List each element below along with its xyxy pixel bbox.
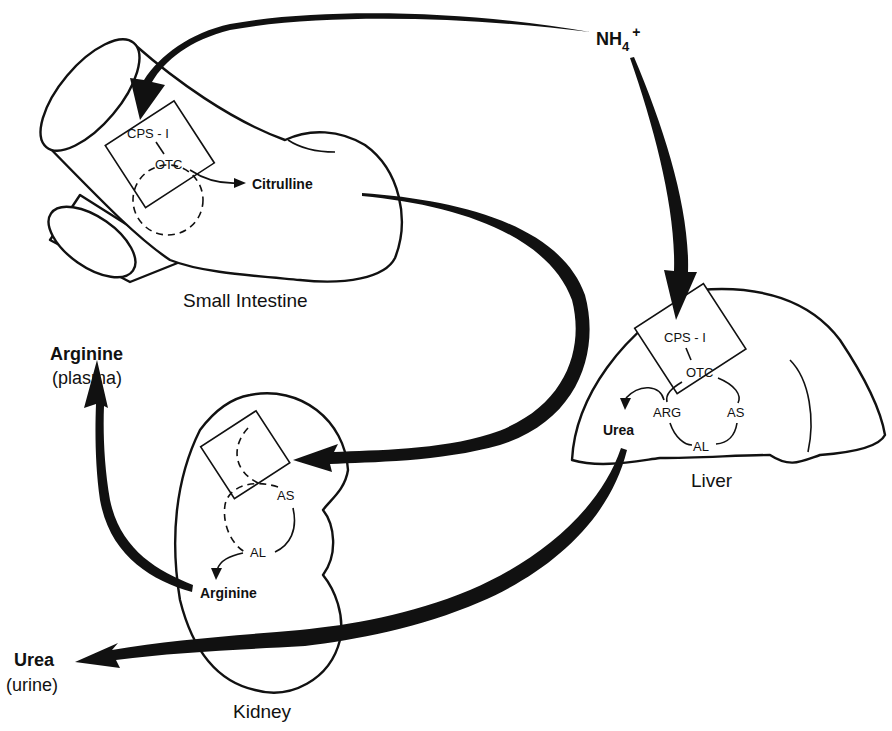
kidney-label: Kidney bbox=[233, 701, 292, 722]
urea-to-urine-arrow bbox=[75, 448, 627, 668]
kidney-arginine-label: Arginine bbox=[200, 585, 257, 601]
kidney-enzyme-al: AL bbox=[250, 545, 266, 560]
liver-urea-label: Urea bbox=[603, 422, 634, 438]
liver-enzyme-al: AL bbox=[693, 439, 709, 454]
small-intestine: CPS - I OTC Citrulline Small Intestine bbox=[23, 24, 401, 311]
arginine-plasma-label: Arginine bbox=[50, 344, 123, 364]
urea-cycle-diagram: CPS - I OTC Citrulline Small Intestine C… bbox=[0, 0, 892, 731]
nh4-to-liver-arrow bbox=[630, 57, 697, 320]
intestine-enzyme-otc: OTC bbox=[155, 157, 182, 172]
small-intestine-label: Small Intestine bbox=[183, 290, 308, 311]
liver-label: Liver bbox=[691, 470, 733, 491]
arginine-plasma-sublabel: (plasma) bbox=[52, 368, 122, 388]
urea-urine-sublabel: (urine) bbox=[6, 675, 58, 695]
kidney: AS AL Arginine Kidney bbox=[175, 393, 348, 722]
citrulline-label: Citrulline bbox=[252, 176, 313, 192]
liver-enzyme-otc: OTC bbox=[686, 365, 713, 380]
nh4-label: NH4+ bbox=[596, 24, 640, 54]
liver-enzyme-arg: ARG bbox=[653, 405, 681, 420]
urea-urine-label: Urea bbox=[14, 650, 55, 670]
liver-enzyme-as: AS bbox=[727, 405, 745, 420]
liver-enzyme-cps: CPS - I bbox=[664, 330, 706, 345]
intestine-enzyme-cps: CPS - I bbox=[127, 126, 169, 141]
kidney-enzyme-as: AS bbox=[277, 488, 295, 503]
